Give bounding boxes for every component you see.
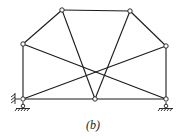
truss-members bbox=[23, 10, 166, 99]
truss-member bbox=[62, 10, 95, 99]
joint-node-icon bbox=[164, 44, 168, 48]
joint-node-icon bbox=[60, 8, 64, 12]
truss-nodes bbox=[21, 8, 168, 101]
joint-node-icon bbox=[164, 97, 168, 101]
truss-member bbox=[130, 11, 166, 46]
left-roller-support-icon bbox=[15, 102, 30, 111]
truss-member bbox=[95, 11, 130, 99]
supports bbox=[11, 93, 173, 111]
figure-caption: (b) bbox=[0, 118, 186, 133]
joint-node-icon bbox=[21, 42, 25, 46]
truss-member bbox=[23, 10, 62, 44]
left-wall-support-icon bbox=[11, 93, 20, 104]
joint-node-icon bbox=[21, 97, 25, 101]
right-roller-support-icon bbox=[158, 102, 173, 111]
truss-member bbox=[62, 10, 130, 11]
joint-node-icon bbox=[93, 97, 97, 101]
joint-node-icon bbox=[128, 9, 132, 13]
